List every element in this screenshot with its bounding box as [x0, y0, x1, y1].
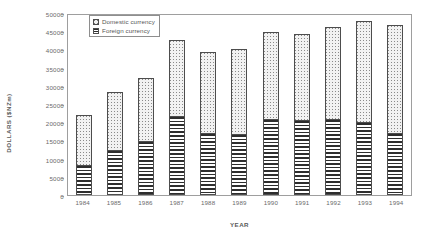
bar-segment-foreign[interactable] — [387, 133, 403, 195]
bar-segment-domestic[interactable] — [200, 52, 216, 132]
x-axis-tick-label: 1991 — [287, 199, 317, 206]
y-axis-tick-mark — [61, 69, 64, 70]
bar-segment-foreign[interactable] — [169, 116, 185, 195]
bar-segment-foreign[interactable] — [200, 133, 216, 195]
bar-group[interactable] — [231, 15, 247, 195]
y-axis-tick-mark — [61, 32, 64, 33]
bar-segment-domestic[interactable] — [231, 49, 247, 134]
y-axis-tick-label: 15000 — [26, 138, 64, 145]
bar-segment-foreign[interactable] — [325, 119, 341, 195]
bar-group[interactable] — [356, 15, 372, 195]
bar-group[interactable] — [200, 15, 216, 195]
bar-segment-foreign[interactable] — [76, 165, 92, 195]
y-axis-tick-label: 0 — [26, 193, 64, 200]
bar-segment-domestic[interactable] — [387, 25, 403, 133]
y-axis-tick-mark — [61, 87, 64, 88]
chart-figure: DOLLARS ($NZm) 0500010000150002000025000… — [0, 0, 423, 246]
bar-segment-foreign[interactable] — [294, 120, 310, 195]
y-axis-tick-label: 40000 — [26, 47, 64, 54]
bar-segment-domestic[interactable] — [138, 78, 154, 141]
bar-group[interactable] — [263, 15, 279, 195]
x-axis-tick-label: 1990 — [256, 199, 286, 206]
x-axis-tick-labels: 1984198519861987198819891990199119921993… — [67, 199, 412, 211]
x-axis-tick-label: 1993 — [350, 199, 380, 206]
bar-segment-foreign[interactable] — [356, 122, 372, 195]
bar-segment-domestic[interactable] — [76, 115, 92, 165]
bar-group[interactable] — [138, 15, 154, 195]
y-axis-tick-mark — [61, 178, 64, 179]
y-axis-tick-label: 25000 — [26, 102, 64, 109]
bars-layer — [68, 15, 411, 195]
bar-group[interactable] — [325, 15, 341, 195]
y-axis-tick-mark — [61, 160, 64, 161]
y-axis-tick-mark — [61, 14, 64, 15]
y-axis-tick-label: 35000 — [26, 65, 64, 72]
x-axis-tick-label: 1994 — [381, 199, 411, 206]
y-axis-tick-mark — [61, 50, 64, 51]
y-axis-tick-label: 20000 — [26, 120, 64, 127]
bar-segment-foreign[interactable] — [231, 134, 247, 195]
legend-swatch-domestic-icon — [93, 19, 99, 25]
x-axis-tick-label: 1989 — [224, 199, 254, 206]
bar-segment-domestic[interactable] — [169, 40, 185, 116]
bar-group[interactable] — [387, 15, 403, 195]
bar-group[interactable] — [294, 15, 310, 195]
x-axis-tick-label: 1987 — [162, 199, 192, 206]
bar-segment-foreign[interactable] — [107, 150, 123, 195]
y-axis-title: DOLLARS ($NZm) — [0, 0, 16, 246]
y-axis-tick-label: 5000 — [26, 174, 64, 181]
y-axis-tick-mark — [61, 123, 64, 124]
bar-segment-foreign[interactable] — [138, 141, 154, 195]
bar-segment-domestic[interactable] — [356, 21, 372, 122]
y-axis-tick-label: 30000 — [26, 83, 64, 90]
legend-label-foreign: Foreign currency — [102, 27, 150, 34]
y-axis-tick-mark — [61, 141, 64, 142]
bar-segment-domestic[interactable] — [107, 92, 123, 150]
y-axis-tick-labels: 0500010000150002000025000300003500040000… — [26, 14, 64, 196]
bar-group[interactable] — [76, 15, 92, 195]
y-axis-tick-mark — [61, 105, 64, 106]
bar-group[interactable] — [169, 15, 185, 195]
bar-segment-domestic[interactable] — [325, 27, 341, 119]
bar-segment-foreign[interactable] — [263, 119, 279, 195]
bar-segment-domestic[interactable] — [294, 34, 310, 120]
y-axis-tick-mark — [61, 196, 64, 197]
legend-swatch-foreign-icon — [93, 28, 99, 34]
plot-area — [67, 14, 412, 196]
x-axis-tick-label: 1988 — [193, 199, 223, 206]
x-axis-tick-label: 1992 — [319, 199, 349, 206]
x-axis-tick-label: 1985 — [99, 199, 129, 206]
chart-legend: Domestic currency Foreign currency — [89, 15, 160, 37]
legend-label-domestic: Domestic currency — [102, 18, 155, 25]
y-axis-tick-label: 45000 — [26, 29, 64, 36]
x-axis-tick-label: 1984 — [68, 199, 98, 206]
x-axis-tick-label: 1986 — [130, 199, 160, 206]
x-axis-title: YEAR — [67, 221, 412, 228]
bar-group[interactable] — [107, 15, 123, 195]
bar-segment-domestic[interactable] — [263, 32, 279, 119]
y-axis-tick-label: 50000 — [26, 11, 64, 18]
legend-item-domestic-currency: Domestic currency — [93, 18, 155, 25]
legend-item-foreign-currency: Foreign currency — [93, 27, 155, 34]
y-axis-tick-label: 10000 — [26, 156, 64, 163]
